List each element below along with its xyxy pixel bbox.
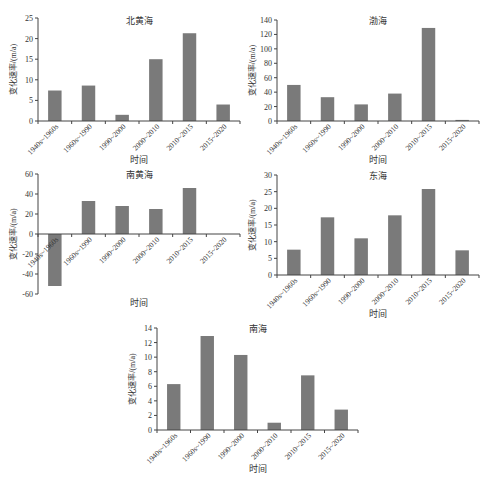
chart-title: 渤海 [369, 15, 387, 26]
x-tick-label: 1960s~1990 [300, 122, 333, 155]
y-tick-label: 15 [25, 55, 33, 64]
bar [234, 355, 247, 430]
x-axis-label: 时间 [130, 297, 148, 308]
x-axis-label: 时间 [369, 308, 387, 319]
y-tick-label: 4 [148, 397, 152, 406]
bar [335, 410, 348, 430]
bar [201, 336, 214, 430]
x-tick-label: 2015~2020 [198, 122, 229, 153]
y-tick-label: 25 [264, 188, 272, 197]
bar [422, 28, 435, 121]
y-tick-label: 100 [260, 45, 272, 54]
chart-title: 北黄海 [126, 15, 153, 26]
x-tick-label: 2010~2015 [403, 276, 434, 307]
x-tick-label: 2015~2020 [437, 276, 468, 307]
bar [48, 91, 61, 121]
y-tick-label: 8 [148, 368, 152, 377]
y-tick-label: 60 [264, 74, 272, 83]
y-tick-label: 25 [25, 14, 33, 23]
bar [183, 33, 196, 121]
bar [354, 104, 367, 121]
x-tick-label: 1960s~1990 [180, 431, 213, 464]
x-tick-label: 2010~2015 [164, 122, 195, 153]
bar [388, 94, 401, 121]
bar [287, 85, 300, 121]
y-tick-label: 0 [148, 426, 152, 435]
bar [455, 250, 468, 275]
y-tick-label: 15 [264, 221, 272, 230]
chart-title: 东海 [369, 170, 387, 181]
x-tick-label: 2010~2015 [164, 235, 195, 266]
x-tick-label: 1960s~1990 [300, 276, 333, 309]
bar [321, 217, 334, 275]
bar [287, 250, 300, 275]
x-axis-label: 时间 [369, 154, 387, 165]
y-tick-label: 30 [264, 171, 272, 180]
chart-1: 0204060801001201401940s~1960s1960s~19901… [247, 15, 479, 165]
y-tick-label: 12 [144, 339, 152, 348]
y-tick-label: 120 [260, 30, 272, 39]
bar [388, 215, 401, 275]
chart-title: 南黄海 [126, 169, 153, 180]
x-tick-label: 1960s~1990 [61, 235, 94, 268]
bar [321, 97, 334, 121]
y-axis-label: 变化速率/(m/a) [8, 43, 18, 95]
x-tick-label: 1990~2000 [97, 235, 128, 266]
y-tick-label: 20 [264, 103, 272, 112]
y-tick-label: 20 [25, 210, 33, 219]
x-axis-label: 时间 [130, 154, 148, 165]
x-tick-label: 2015~2020 [198, 235, 229, 266]
bar [167, 384, 180, 430]
x-tick-label: 2000~2010 [131, 235, 162, 266]
y-tick-label: 10 [25, 76, 33, 85]
x-tick-label: 2000~2010 [131, 122, 162, 153]
x-tick-label: 1990~2000 [336, 122, 367, 153]
chart-4: 024681012141940s~1960s1960s~19901990~200… [127, 323, 358, 474]
bar [115, 115, 128, 121]
y-tick-label: 5 [268, 254, 272, 263]
x-tick-label: 2010~2015 [403, 122, 434, 153]
bar [82, 86, 95, 121]
y-tick-label: 6 [148, 382, 152, 391]
x-tick-label: 1940s~1960s [145, 431, 180, 466]
chart-3: 0510152025301940s~1960s1960s~19901990~20… [247, 170, 479, 319]
bar [82, 201, 95, 234]
y-axis-label: 变化速率/(m/a) [247, 199, 257, 251]
y-tick-label: -40 [22, 270, 33, 279]
bar [354, 238, 367, 275]
y-tick-label: 20 [264, 204, 272, 213]
y-tick-label: 80 [264, 59, 272, 68]
x-tick-label: 1990~2000 [97, 122, 128, 153]
y-tick-label: 20 [25, 35, 33, 44]
bar [268, 423, 281, 430]
x-tick-label: 1990~2000 [216, 431, 247, 462]
y-tick-label: 60 [25, 170, 33, 179]
x-axis-label: 时间 [249, 463, 267, 474]
y-axis-label: 变化速率/(m/a) [127, 353, 137, 405]
y-tick-label: 10 [264, 238, 272, 247]
bar [149, 209, 162, 234]
x-tick-label: 1990~2000 [336, 276, 367, 307]
bar [301, 375, 314, 430]
chart-title: 南海 [249, 323, 267, 334]
y-axis-label: 变化速率/(m/a) [8, 208, 18, 260]
y-tick-label: 140 [260, 16, 272, 25]
bar [149, 59, 162, 121]
x-tick-label: 2010~2015 [283, 431, 314, 462]
x-tick-label: 1940s~1960s [265, 276, 300, 311]
y-tick-label: 40 [264, 88, 272, 97]
chart-0: 05101520251940s~1960s1960s~19901990~2000… [8, 14, 240, 165]
y-axis-label: 变化速率/(m/a) [247, 44, 257, 96]
y-tick-label: 14 [144, 324, 152, 333]
x-tick-label: 1940s~1960s [265, 122, 300, 157]
bar [115, 206, 128, 234]
x-tick-label: 2000~2010 [370, 122, 401, 153]
figure-canvas: 05101520251940s~1960s1960s~19901990~2000… [0, 0, 488, 488]
y-tick-label: 0 [29, 230, 33, 239]
y-tick-label: 0 [268, 271, 272, 280]
bar [183, 188, 196, 234]
x-tick-label: 1940s~1960s [26, 122, 61, 157]
x-tick-label: 2015~2020 [437, 122, 468, 153]
y-tick-label: 10 [144, 353, 152, 362]
y-tick-label: 40 [25, 190, 33, 199]
